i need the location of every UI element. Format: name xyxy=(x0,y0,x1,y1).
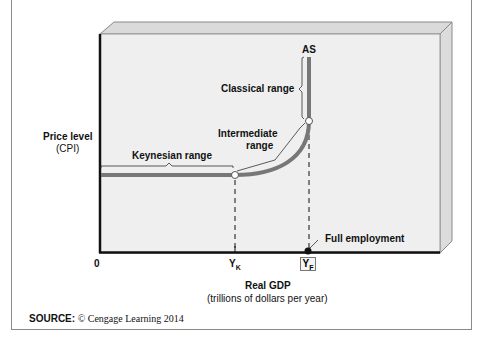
origin-label: 0 xyxy=(94,258,100,269)
intermediate-range-label-2: range xyxy=(246,140,273,151)
box-right-face xyxy=(440,22,452,253)
yk-label: YK xyxy=(229,258,241,273)
yf-kink-point xyxy=(306,118,313,125)
keynesian-range-label: Keynesian range xyxy=(132,150,212,161)
full-employment-label: Full employment xyxy=(325,233,404,244)
x-axis-label: Real GDP xyxy=(245,280,291,291)
y-axis-label: Price level xyxy=(43,131,92,142)
full-employment-point xyxy=(305,248,312,255)
as-curve-diagram xyxy=(0,0,477,341)
classical-range-label: Classical range xyxy=(221,83,294,94)
intermediate-range-label-1: Intermediate xyxy=(218,128,277,139)
box-top-face xyxy=(100,22,452,34)
x-axis-sublabel: (trillions of dollars per year) xyxy=(207,293,328,304)
yf-label: YF xyxy=(300,257,316,271)
yk-point xyxy=(232,172,239,179)
as-curve-label: AS xyxy=(302,44,316,55)
source-note: SOURCE: © Cengage Learning 2014 xyxy=(29,313,184,324)
y-axis-sublabel: (CPI) xyxy=(56,143,79,154)
